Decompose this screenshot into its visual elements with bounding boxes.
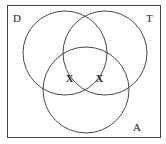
- label-a: A: [133, 121, 141, 133]
- circle-d: [23, 11, 107, 95]
- circle-t: [63, 11, 147, 95]
- mark-x-right: X: [96, 73, 104, 84]
- universal-set-box: [8, 6, 161, 138]
- venn-diagram: D T A X X: [0, 0, 166, 144]
- label-d: D: [13, 12, 21, 24]
- label-t: T: [146, 12, 153, 24]
- mark-x-left: X: [66, 73, 74, 84]
